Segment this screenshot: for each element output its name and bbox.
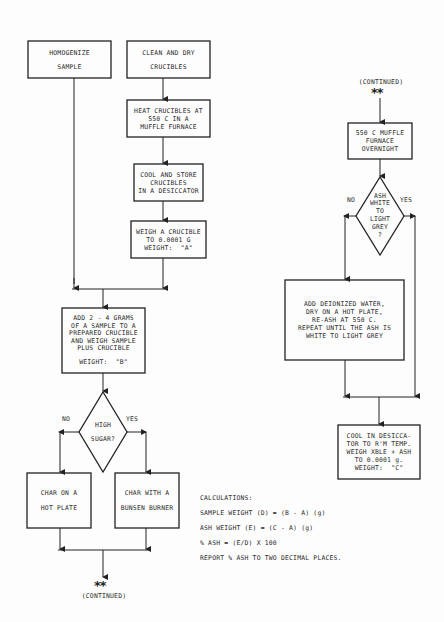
box-text-line: MUFFLE FURNACE — [140, 123, 197, 131]
high-sugar-decision: HIGH SUGAR? — [79, 412, 127, 452]
decision-text-line: SUGAR? — [91, 432, 115, 446]
box-text-line: ADD DEIONIZED WATER, — [304, 300, 385, 308]
box-text-line: REPEAT UNTIL THE ASH IS — [298, 324, 391, 332]
muffle-furnace-box: 550 C MUFFLE FURNACE OVERNIGHT — [348, 123, 412, 159]
box-text-line: CRUCIBLES — [150, 60, 186, 74]
box-text-line: DRY ON A HOT PLATE, — [306, 308, 383, 316]
ash-analysis-flowchart: HOMOGENIZE SAMPLE CLEAN AND DRY CRUCIBLE… — [0, 0, 444, 622]
reash-box: ADD DEIONIZED WATER, DRY ON A HOT PLATE,… — [285, 280, 404, 360]
yes-branch-label: YES — [400, 196, 412, 204]
box-text-line: 550 C IN A — [148, 115, 188, 123]
box-text-line: CRUCIBLES — [150, 179, 186, 187]
box-text-line: FURNACE — [366, 137, 394, 145]
box-text-line: TOR TO R'M TEMP. — [347, 440, 412, 448]
homogenize-sample-box: HOMOGENIZE SAMPLE — [28, 41, 111, 78]
ash-color-decision: ASH WHITE TO LIGHT GREY ? — [360, 192, 400, 240]
clean-dry-crucibles-box: CLEAN AND DRY CRUCIBLES — [127, 41, 210, 78]
box-text-line: CHAR WITH A — [125, 486, 170, 501]
continued-label-left: (CONTINUED) — [78, 592, 130, 600]
calc-ash-weight: ASH WEIGHT (E) = (C - A) (g) — [200, 524, 313, 532]
box-text-line: CHAR ON A — [41, 486, 77, 501]
heat-crucibles-box: HEAT CRUCIBLES AT 550 C IN A MUFFLE FURN… — [127, 100, 210, 137]
cool-store-box: COOL AND STORE CRUCIBLES IN A DESICCATOR — [134, 164, 203, 201]
box-text-line: TO 0.0001 g. — [355, 456, 404, 464]
box-text-line: HEAT CRUCIBLES AT — [134, 107, 203, 115]
char-hot-plate-box: CHAR ON A HOT PLATE — [27, 473, 91, 528]
no-branch-label: NO — [347, 196, 355, 204]
calculations-title: CALCULATIONS: — [200, 494, 253, 502]
char-bunsen-burner-box: CHAR WITH A BUNSEN BURNER — [115, 473, 179, 528]
box-text-line: HOT PLATE — [41, 501, 77, 516]
box-text-line: HOMOGENIZE — [49, 46, 89, 60]
continued-asterisks-left: ** — [94, 578, 106, 593]
box-text-line: OVERNIGHT — [362, 145, 398, 153]
box-text-line: COOL IN DESICCA- — [347, 432, 412, 440]
box-text-line: WEIGH A CRUCIBLE — [136, 228, 201, 236]
box-text-line: RE-ASH AT 550 C. — [312, 316, 377, 324]
box-text-line: CLEAN AND DRY — [142, 46, 195, 60]
decision-text-line: HIGH — [95, 418, 111, 432]
box-text-line: WEIGH XBLE + ASH — [347, 448, 412, 456]
continued-asterisks-right: ** — [371, 85, 383, 100]
box-text-line: IN A DESICCATOR — [138, 187, 199, 195]
calc-sample-weight: SAMPLE WEIGHT (D) = (B - A) (g) — [200, 509, 325, 517]
cool-weigh-ash-box: COOL IN DESICCA- TOR TO R'M TEMP. WEIGH … — [338, 425, 420, 479]
calc-report-instruction: REPORT % ASH TO TWO DECIMAL PLACES. — [200, 554, 342, 562]
yes-branch-label: YES — [126, 415, 138, 423]
no-branch-label: NO — [62, 415, 70, 423]
box-text-line: PLUS CRUCIBLE — [77, 345, 130, 353]
calc-percent-ash: % ASH = (E/D) X 100 — [200, 539, 277, 547]
weigh-crucible-box: WEIGH A CRUCIBLE TO 0.0001 G WEIGHT: "A" — [131, 221, 206, 258]
box-text-line: 550 C MUFFLE — [356, 129, 405, 137]
box-text-line: WEIGHT: "A" — [144, 244, 193, 252]
box-text-line: WEIGHT: "C" — [355, 464, 404, 472]
box-text-line: TO 0.0001 G — [146, 236, 191, 244]
box-text-line: COOL AND STORE — [140, 171, 197, 179]
decision-text-line: ? — [378, 232, 382, 240]
box-text-line: BUNSEN BURNER — [121, 501, 174, 516]
box-text-line: SAMPLE — [57, 60, 81, 74]
box-text-line: WHITE TO LIGHT GREY — [306, 332, 383, 340]
add-sample-box: ADD 2 - 4 GRAMS OF A SAMPLE TO A PREPARE… — [62, 308, 145, 373]
box-text-line: WEIGHT: "B" — [79, 359, 128, 367]
